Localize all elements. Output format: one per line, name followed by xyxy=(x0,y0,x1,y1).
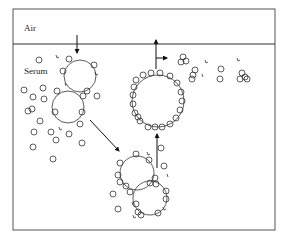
air-label: Air xyxy=(24,23,36,33)
foam-protein-adsorption-diagram: Air Serum xyxy=(0,0,287,240)
serum-label: Serum xyxy=(24,66,48,76)
fusing-bubble-pair xyxy=(115,151,169,218)
bubble-adsorbing-proteins xyxy=(52,88,100,123)
bubble-entering-from-air xyxy=(60,56,98,94)
aggregates-released-at-interface xyxy=(178,54,250,82)
free-protein-molecules xyxy=(21,55,168,212)
arrow-bubble-to-fusion xyxy=(90,120,119,151)
large-coated-bubble xyxy=(130,70,185,130)
diagram-frame xyxy=(13,9,275,230)
